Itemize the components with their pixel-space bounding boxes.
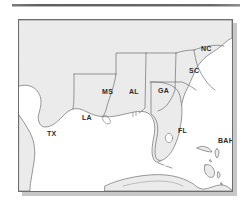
map-graphic: [19, 20, 232, 191]
map-figure: NC SC GA AL MS LA TX FL BAH MEX CUBA: [18, 19, 233, 192]
map-frame: NC SC GA AL MS LA TX FL BAH MEX CUBA: [18, 19, 233, 192]
landmass-bahamas-speck-a: [210, 160, 212, 162]
landmass-bahamas-andros: [215, 149, 219, 158]
lake-okeechobee: [165, 133, 172, 142]
horizontal-rule-top-hairline: [12, 6, 240, 7]
landmass-bahamas-south: [217, 172, 220, 178]
